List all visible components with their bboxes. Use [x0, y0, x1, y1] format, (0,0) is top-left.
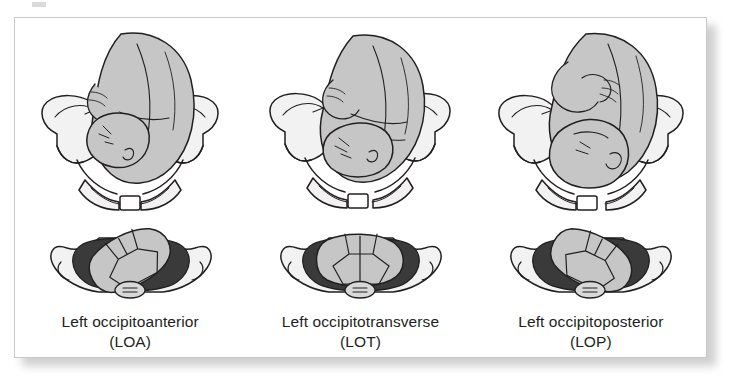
- caption-loa: Left occipitoanterior (LOA): [61, 312, 198, 352]
- panel-row: Left occipitoanterior (LOA): [15, 18, 706, 357]
- figure-plate-page: Left occipitoanterior (LOA): [0, 0, 730, 391]
- panel-lop: Left occipitoposterior (LOP): [476, 18, 706, 352]
- fetus-in-pelvis-lot: [255, 22, 465, 220]
- caption-lot-abbreviation: (LOT): [282, 332, 439, 352]
- caption-lop-abbreviation: (LOP): [518, 332, 663, 352]
- panel-lot: Left occipitotransverse (LOT): [245, 18, 475, 352]
- fetus-in-pelvis-loa: [25, 22, 235, 220]
- pelvic-outlet-skull-lot: [273, 218, 448, 306]
- fetus-in-pelvis-lop: [486, 22, 696, 220]
- caption-lop: Left occipitoposterior (LOP): [518, 312, 663, 352]
- caption-lop-line1: Left occipitoposterior: [518, 313, 663, 330]
- pelvic-outlet-skull-loa: [43, 218, 218, 306]
- illustration-plate: Left occipitoanterior (LOA): [14, 17, 707, 358]
- panel-loa: Left occipitoanterior (LOA): [15, 18, 245, 352]
- pelvic-outlet-skull-lop: [503, 218, 678, 306]
- caption-lot: Left occipitotransverse (LOT): [282, 312, 439, 352]
- scan-artifact: [32, 2, 46, 7]
- caption-lot-line1: Left occipitotransverse: [282, 313, 439, 330]
- caption-loa-line1: Left occipitoanterior: [61, 313, 198, 330]
- caption-loa-abbreviation: (LOA): [61, 332, 198, 352]
- fetal-skull-lot: [316, 234, 403, 286]
